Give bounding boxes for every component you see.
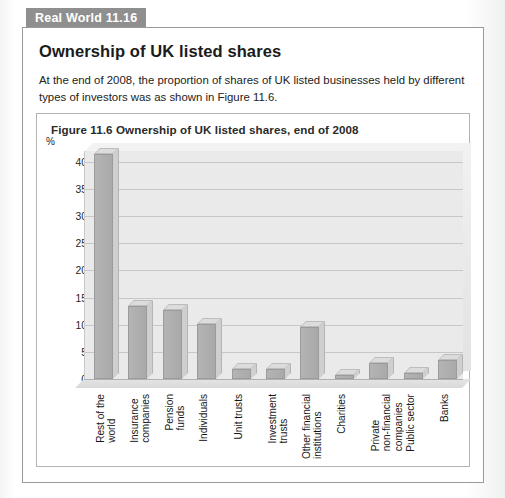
x-category-label: Rest of the world xyxy=(95,394,118,443)
x-category-label: Public sector xyxy=(405,394,416,452)
x-category-label: Investment trusts xyxy=(267,394,290,443)
x-category-label: Charities xyxy=(336,394,347,434)
real-world-badge: Real World 11.16 xyxy=(26,8,146,27)
bar xyxy=(163,310,182,379)
gridline xyxy=(84,379,463,380)
bar-side xyxy=(319,321,325,379)
plot-area xyxy=(84,151,471,387)
bar-front xyxy=(197,324,216,379)
bar-side xyxy=(113,148,119,379)
bar-side xyxy=(182,304,188,379)
x-category-label: Individuals xyxy=(198,394,209,442)
bar xyxy=(266,369,285,379)
bar-front xyxy=(94,154,113,379)
x-category-label: Banks xyxy=(439,394,450,422)
intro-paragraph: At the end of 2008, the proportion of sh… xyxy=(39,72,467,105)
bar-chart: % 0510152025303540 Rest of the worldInsu… xyxy=(37,114,471,468)
bar-side xyxy=(216,318,222,379)
bar-front xyxy=(300,327,319,379)
bar-front xyxy=(163,310,182,379)
bar xyxy=(197,324,216,379)
bar-front xyxy=(438,360,457,379)
bar-side xyxy=(147,300,153,379)
bar xyxy=(300,327,319,379)
x-category-label: Private non-financial companies xyxy=(370,394,404,451)
bar xyxy=(404,373,423,379)
bar xyxy=(369,363,388,379)
bar-series xyxy=(84,151,463,379)
bar xyxy=(94,154,113,379)
bar xyxy=(128,306,147,379)
bar-front xyxy=(232,369,251,379)
x-category-label: Pension funds xyxy=(164,394,187,430)
bar xyxy=(438,360,457,379)
bar-front xyxy=(335,375,354,379)
x-category-label: Other financial institutions xyxy=(301,394,324,459)
figure-panel: Figure 11.6 Ownership of UK listed share… xyxy=(36,113,470,467)
bar xyxy=(232,369,251,379)
real-world-badge-label: Real World 11.16 xyxy=(35,11,137,25)
page-title: Ownership of UK listed shares xyxy=(39,42,467,61)
bar-front xyxy=(369,363,388,379)
bar-front xyxy=(128,306,147,379)
x-category-label: Unit trusts xyxy=(233,394,244,439)
plot-base-slab xyxy=(75,379,471,388)
x-category-label: Insurance companies xyxy=(129,394,152,443)
bar xyxy=(335,375,354,379)
bar-front xyxy=(404,373,423,379)
bar-front xyxy=(266,369,285,379)
x-axis-category-labels: Rest of the worldInsurance companiesPens… xyxy=(84,394,471,468)
